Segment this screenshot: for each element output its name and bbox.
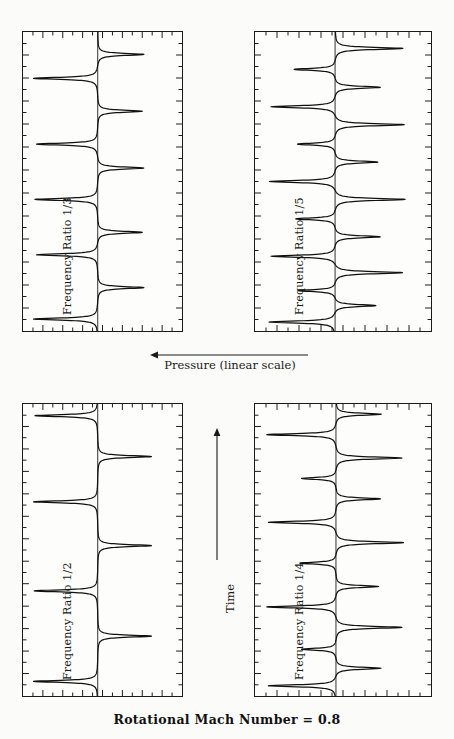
pressure-trace	[269, 32, 405, 331]
plot-canvas	[23, 404, 182, 696]
pressure-trace	[33, 404, 151, 696]
figure-root: Frequency Ratio 1/3 Frequency Ratio 1/5 …	[0, 0, 454, 739]
plot-panel-ratio-1-3: Frequency Ratio 1/3	[22, 31, 183, 332]
time-axis-arrow	[211, 428, 223, 562]
plot-canvas	[23, 32, 182, 331]
pressure-trace	[34, 32, 144, 331]
pressure-trace	[267, 404, 404, 696]
plot-panel-ratio-1-2: Frequency Ratio 1/2	[22, 403, 183, 697]
figure-caption: Rotational Mach Number = 0.8	[0, 712, 454, 727]
plot-canvas	[255, 404, 431, 696]
pressure-axis-label: Pressure (linear scale)	[130, 358, 330, 372]
plot-panel-ratio-1-4: Frequency Ratio 1/4	[254, 403, 432, 697]
time-axis-label: Time	[223, 584, 237, 613]
plot-panel-ratio-1-5: Frequency Ratio 1/5	[254, 31, 432, 332]
plot-canvas	[255, 32, 431, 331]
